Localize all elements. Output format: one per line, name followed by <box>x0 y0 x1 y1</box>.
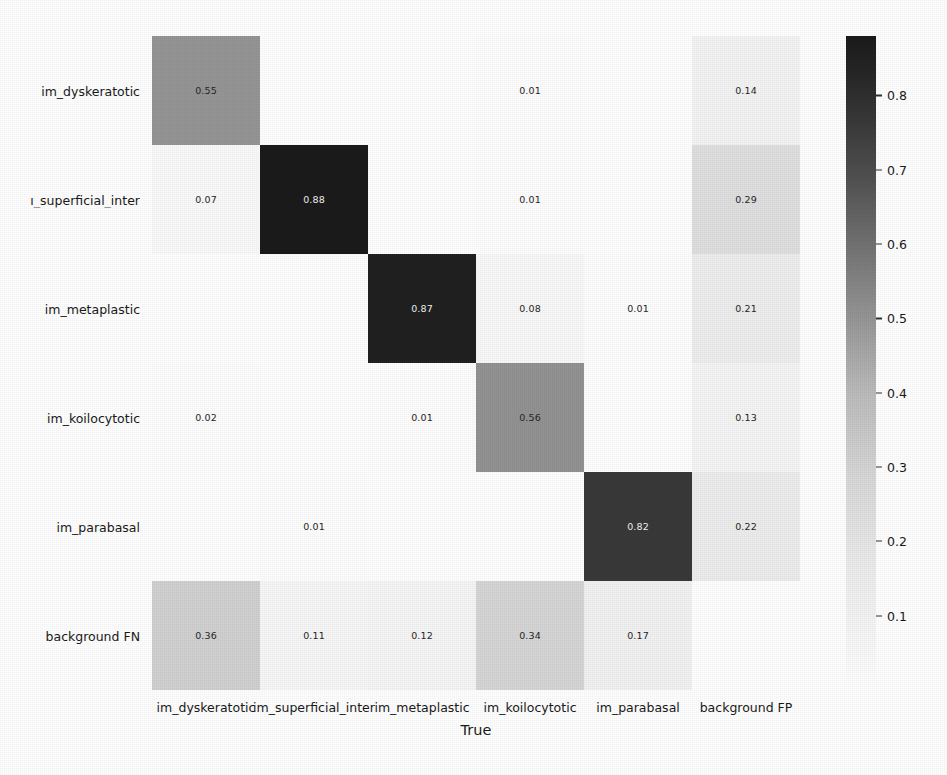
heatmap-cell: 0.21 <box>692 254 800 363</box>
heatmap-cell: 0.14 <box>692 36 800 145</box>
heatmap-cell-value: 0.12 <box>411 631 433 641</box>
colorbar-tick-0.8: 0.8 <box>876 88 907 103</box>
colorbar: 0.10.20.30.40.50.60.70.8 <box>846 36 876 690</box>
heatmap-cell: 0.87 <box>368 254 476 363</box>
heatmap-cell-value: 0.13 <box>735 413 757 423</box>
heatmap-cell-value: 0.56 <box>519 413 541 423</box>
colorbar-tick-text: 0.7 <box>887 162 907 177</box>
heatmap-cell-value: 0.14 <box>735 86 757 96</box>
colorbar-tick-0.5: 0.5 <box>876 311 907 326</box>
colorbar-tick-text: 0.4 <box>887 385 907 400</box>
x-axis-title: True <box>152 722 800 738</box>
heatmap-cell-grid: 0.550.010.140.070.880.010.290.870.080.01… <box>152 36 800 690</box>
y-tick-label-background-fn: background FN <box>46 628 140 643</box>
heatmap-cell: 0.01 <box>476 36 584 145</box>
heatmap-cell: 0.88 <box>260 145 368 254</box>
heatmap-cell: 0.55 <box>152 36 260 145</box>
heatmap-cell <box>152 254 260 363</box>
heatmap-cell <box>260 36 368 145</box>
heatmap-cell-value: 0.88 <box>303 195 325 205</box>
x-tick-label-im-metaplastic: im_metaplastic <box>374 700 469 715</box>
heatmap-cell-value: 0.22 <box>735 522 757 532</box>
heatmap-cell: 0.01 <box>584 254 692 363</box>
heatmap-plot-area: 0.550.010.140.070.880.010.290.870.080.01… <box>152 36 800 690</box>
y-tick-label-im-dyskeratotic: im_dyskeratotic <box>41 83 140 98</box>
heatmap-cell: 0.36 <box>152 581 260 690</box>
heatmap-cell <box>692 581 800 690</box>
heatmap-cell: 0.29 <box>692 145 800 254</box>
heatmap-cell-value: 0.82 <box>627 522 649 532</box>
heatmap-cell-value: 0.21 <box>735 304 757 314</box>
heatmap-cell <box>584 145 692 254</box>
colorbar-tick-mark-icon <box>876 169 882 170</box>
colorbar-tick-text: 0.8 <box>887 88 907 103</box>
heatmap-cell-value: 0.02 <box>195 413 217 423</box>
colorbar-tick-mark-icon <box>876 243 882 244</box>
heatmap-cell-value: 0.08 <box>519 304 541 314</box>
y-tick-label-im-superficial-inter: ı_superficial_inter <box>30 192 140 207</box>
heatmap-cell-value: 0.07 <box>195 195 217 205</box>
heatmap-cell <box>584 363 692 472</box>
heatmap-cell: 0.12 <box>368 581 476 690</box>
heatmap-cell-value: 0.36 <box>195 631 217 641</box>
heatmap-cell: 0.01 <box>476 145 584 254</box>
y-tick-label-im-koilocytotic: im_koilocytotic <box>47 410 140 425</box>
colorbar-tick-0.1: 0.1 <box>876 608 907 623</box>
heatmap-cell-value: 0.01 <box>519 195 541 205</box>
heatmap-cell <box>368 36 476 145</box>
colorbar-tick-0.4: 0.4 <box>876 385 907 400</box>
colorbar-tick-mark-icon <box>876 318 882 319</box>
y-tick-label-im-parabasal: im_parabasal <box>56 519 140 534</box>
confusion-matrix-figure: 0.550.010.140.070.880.010.290.870.080.01… <box>0 0 947 775</box>
colorbar-tick-text: 0.5 <box>887 311 907 326</box>
colorbar-tick-mark-icon <box>876 615 882 616</box>
colorbar-tick-text: 0.1 <box>887 608 907 623</box>
heatmap-cell-value: 0.17 <box>627 631 649 641</box>
heatmap-cell <box>476 472 584 581</box>
heatmap-cell-value: 0.01 <box>519 86 541 96</box>
colorbar-tick-mark-icon <box>876 95 882 96</box>
heatmap-cell: 0.17 <box>584 581 692 690</box>
colorbar-tick-0.7: 0.7 <box>876 162 907 177</box>
x-tick-label-background-fp: background FP <box>700 700 793 715</box>
heatmap-cell <box>368 472 476 581</box>
heatmap-cell: 0.34 <box>476 581 584 690</box>
heatmap-cell-value: 0.29 <box>735 195 757 205</box>
colorbar-tick-0.6: 0.6 <box>876 237 907 252</box>
heatmap-cell-value: 0.34 <box>519 631 541 641</box>
heatmap-cell: 0.07 <box>152 145 260 254</box>
colorbar-tick-text: 0.2 <box>887 534 907 549</box>
colorbar-tick-mark-icon <box>876 541 882 542</box>
heatmap-cell: 0.02 <box>152 363 260 472</box>
heatmap-cell-value: 0.01 <box>627 304 649 314</box>
y-tick-label-im-metaplastic: im_metaplastic <box>45 301 140 316</box>
heatmap-cell-value: 0.01 <box>411 413 433 423</box>
heatmap-cell-value: 0.01 <box>303 522 325 532</box>
heatmap-cell: 0.56 <box>476 363 584 472</box>
heatmap-cell <box>260 363 368 472</box>
x-tick-label-im-superficial-inter: im_superficial_inter <box>253 700 375 715</box>
heatmap-cell-value: 0.11 <box>303 631 325 641</box>
colorbar-tick-0.2: 0.2 <box>876 534 907 549</box>
heatmap-cell: 0.11 <box>260 581 368 690</box>
heatmap-cell-value: 0.87 <box>411 304 433 314</box>
heatmap-cell <box>584 36 692 145</box>
colorbar-tick-text: 0.6 <box>887 237 907 252</box>
x-tick-label-im-koilocytotic: im_koilocytotic <box>484 700 577 715</box>
heatmap-cell: 0.82 <box>584 472 692 581</box>
colorbar-gradient <box>846 36 876 690</box>
heatmap-cell <box>368 145 476 254</box>
colorbar-tick-0.3: 0.3 <box>876 460 907 475</box>
colorbar-tick-mark-icon <box>876 392 882 393</box>
x-tick-label-im-dyskeratotic: im_dyskeratotic <box>157 700 256 715</box>
heatmap-cell: 0.01 <box>368 363 476 472</box>
heatmap-cell <box>260 254 368 363</box>
colorbar-tick-text: 0.3 <box>887 460 907 475</box>
heatmap-cell: 0.08 <box>476 254 584 363</box>
heatmap-cell <box>152 472 260 581</box>
heatmap-cell: 0.22 <box>692 472 800 581</box>
heatmap-cell-value: 0.55 <box>195 86 217 96</box>
heatmap-cell: 0.13 <box>692 363 800 472</box>
x-tick-label-im-parabasal: im_parabasal <box>596 700 680 715</box>
heatmap-cell: 0.01 <box>260 472 368 581</box>
